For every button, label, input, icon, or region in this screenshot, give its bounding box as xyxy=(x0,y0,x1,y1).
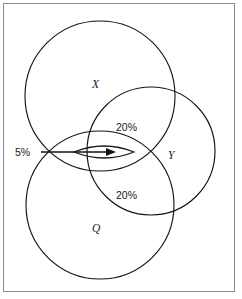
label-set-y: Y xyxy=(168,149,176,161)
label-overlap-q-y: 20% xyxy=(116,189,137,201)
venn-diagram-canvas: 5% X Y Q 20% 20% xyxy=(0,0,242,299)
circle-set-q xyxy=(26,131,174,279)
label-set-x: X xyxy=(91,78,100,90)
callout-arrowhead-icon xyxy=(106,148,116,156)
circle-set-x xyxy=(25,21,175,171)
venn-diagram-figure: 5% X Y Q 20% 20% xyxy=(0,0,242,299)
label-overlap-x-q: 5% xyxy=(15,146,30,158)
label-set-q: Q xyxy=(92,222,101,234)
label-overlap-x-y: 20% xyxy=(116,121,137,133)
